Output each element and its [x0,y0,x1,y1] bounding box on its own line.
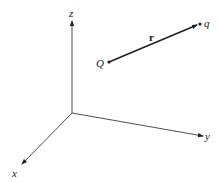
x-axis [22,113,72,164]
point-Q-label: Q [96,57,104,69]
point-Q [107,60,110,63]
x-axis-label: x [11,167,17,179]
point-q-label: q [204,17,210,29]
coordinate-diagram: z y x Q q r [0,0,220,182]
point-q [198,22,201,25]
y-axis-label: y [204,130,210,142]
vector-r-label: r [149,31,154,43]
z-axis-label: z [68,7,74,19]
y-axis [72,113,203,136]
